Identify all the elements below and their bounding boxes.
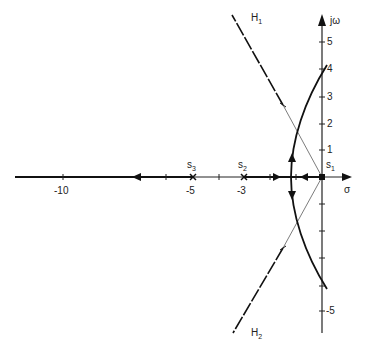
x-tick-label-m3: -3 [237,186,246,196]
arrow-s1-left [300,173,308,181]
pole-label-s2: s2 [238,160,247,172]
axis-label-jw: jω [330,16,340,26]
axis-label-sigma: σ [344,185,350,195]
arrow-lower-branch [288,191,296,200]
arrow-s2-right [273,173,281,181]
y-tick-label-2: 2 [327,119,333,129]
asymptote-h1 [232,15,283,105]
arrow-upper-branch [288,153,296,162]
y-tick-label-3: 3 [327,92,333,102]
y-tick-label-1: 1 [327,145,333,155]
arrow-imag-axis [318,14,326,26]
y-tick-label-4: 4 [327,64,333,74]
pole-s1 [319,174,325,180]
asymptote-label-h2: H2 [251,328,262,340]
root-locus-plot [0,0,365,356]
pole-label-s3: s3 [187,160,196,172]
asymptote-h2 [233,248,283,333]
y-tick-label-m5: -5 [326,306,335,316]
asymptote-label-h1: H1 [251,13,262,25]
y-tick-label-5: 5 [327,37,333,47]
x-tick-label-m10: -10 [54,186,68,196]
arrow-real-axis [342,173,352,181]
pole-label-s1: s1 [326,160,335,172]
x-tick-label-m5: -5 [186,186,195,196]
arrow-left-real [132,173,141,181]
